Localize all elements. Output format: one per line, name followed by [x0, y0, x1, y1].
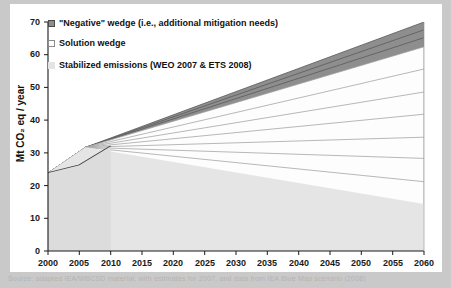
x-tick-label: 2015	[125, 258, 159, 268]
y-tick-label: 30	[14, 148, 40, 158]
x-tick-label: 2010	[94, 258, 128, 268]
wedge-areas	[48, 22, 424, 251]
y-tick-label: 50	[14, 82, 40, 92]
x-tick-label: 2000	[31, 258, 65, 268]
x-tick-label: 2055	[376, 258, 410, 268]
legend-label: Solution wedge	[59, 38, 126, 48]
figure-caption: Source: adapted IEA/WBCSD material, with…	[8, 275, 448, 282]
x-tick-label: 2035	[250, 258, 284, 268]
legend-item-solution-wedge: Solution wedge	[48, 38, 126, 48]
x-tick-label: 2050	[344, 258, 378, 268]
negative-wedge-swatch-icon	[48, 20, 55, 27]
solution-wedge-swatch-icon	[48, 40, 55, 47]
y-axis-ticks	[44, 22, 48, 251]
x-axis-ticks	[48, 251, 424, 255]
x-tick-label: 2025	[188, 258, 222, 268]
x-tick-label: 2030	[219, 258, 253, 268]
legend-label: "Negative" wedge (i.e., additional mitig…	[59, 18, 278, 28]
y-tick-label: 10	[14, 213, 40, 223]
y-tick-label: 20	[14, 181, 40, 191]
y-tick-label: 0	[14, 246, 40, 256]
y-tick-label: 70	[14, 17, 40, 27]
legend-item-negative-wedge: "Negative" wedge (i.e., additional mitig…	[48, 18, 278, 28]
legend-label: Stabilized emissions (WEO 2007 & ETS 200…	[59, 60, 252, 70]
figure-container: Mt CO₂ eq / year 70 60 50 40 30 20 10 0 …	[0, 0, 451, 288]
y-tick-label: 60	[14, 49, 40, 59]
y-tick-label: 40	[14, 115, 40, 125]
x-tick-label: 2060	[407, 258, 441, 268]
x-tick-label: 2020	[156, 258, 190, 268]
stabilized-emissions-swatch-icon	[48, 62, 55, 69]
x-tick-label: 2045	[313, 258, 347, 268]
x-tick-label: 2005	[62, 258, 96, 268]
legend-item-stabilized-emissions: Stabilized emissions (WEO 2007 & ETS 200…	[48, 60, 252, 70]
x-tick-label: 2040	[282, 258, 316, 268]
